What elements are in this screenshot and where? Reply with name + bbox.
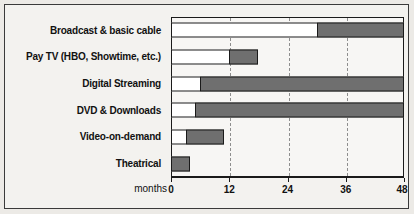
bar-segment-window-start: [171, 129, 186, 144]
bar-segment-availability: [200, 76, 404, 91]
bar-row-dvd-downloads: [171, 97, 404, 124]
stacked-bar: [171, 76, 404, 91]
x-tick-label-24: 24: [282, 184, 293, 195]
bar-segment-availability: [195, 103, 404, 118]
x-tick-0: [171, 178, 172, 182]
bar-segment-window-start: [171, 103, 195, 118]
bar-segment-availability: [186, 129, 225, 144]
category-label: Broadcast & basic cable: [50, 25, 161, 36]
category-label: DVD & Downloads: [77, 105, 161, 116]
x-tick-12: [229, 178, 230, 182]
bar-row-pay-tv: [171, 44, 404, 71]
bar-segment-availability: [229, 49, 258, 64]
axis-title: months: [113, 183, 167, 194]
x-tick-label-0: 0: [168, 184, 174, 195]
stacked-bar: [171, 103, 404, 118]
bar-row-theatrical: [171, 150, 404, 177]
category-axis-labels: Broadcast & basic cable Pay TV (HBO, Sho…: [5, 17, 167, 177]
bar-segment-availability: [171, 156, 190, 171]
category-label-row: Pay TV (HBO, Showtime, etc.): [5, 44, 167, 71]
x-tick-label-12: 12: [224, 184, 235, 195]
category-label-row: Theatrical: [5, 150, 167, 177]
value-axis: 0 12 24 36 48: [171, 177, 404, 178]
stacked-bar: [171, 156, 190, 171]
x-tick-48: [404, 178, 405, 182]
category-label: Theatrical: [116, 158, 161, 169]
x-tick-label-36: 36: [340, 184, 351, 195]
stacked-bar: [171, 129, 224, 144]
bars-layer: [171, 17, 404, 177]
category-label: Pay TV (HBO, Showtime, etc.): [26, 51, 161, 62]
bar-segment-window-start: [171, 23, 317, 38]
category-label: Digital Streaming: [82, 78, 161, 89]
category-label-row: Broadcast & basic cable: [5, 17, 167, 44]
x-tick-24: [288, 178, 289, 182]
bar-row-video-on-demand: [171, 124, 404, 151]
stacked-bar: [171, 49, 258, 64]
x-tick-36: [346, 178, 347, 182]
category-label-row: DVD & Downloads: [5, 97, 167, 124]
bar-segment-availability: [317, 23, 404, 38]
bar-segment-window-start: [171, 49, 229, 64]
bar-segment-window-start: [171, 76, 200, 91]
category-label: Video-on-demand: [80, 131, 161, 142]
x-tick-label-48: 48: [396, 184, 407, 195]
figure-frame: Broadcast & basic cable Pay TV (HBO, Sho…: [4, 4, 409, 209]
category-label-row: Digital Streaming: [5, 70, 167, 97]
stacked-bar: [171, 23, 404, 38]
category-label-row: Video-on-demand: [5, 124, 167, 151]
bar-row-digital-streaming: [171, 70, 404, 97]
bar-row-broadcast-basic-cable: [171, 17, 404, 44]
chart-screenshot: Broadcast & basic cable Pay TV (HBO, Sho…: [0, 0, 414, 214]
